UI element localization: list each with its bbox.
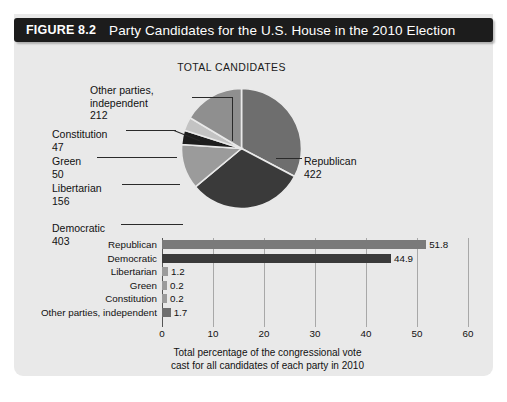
pie-label-other-parties: Other parties, independent 212 [90,84,154,122]
leader-line-democratic [121,224,183,225]
x-tick-label: 10 [208,328,219,339]
bar-value-label: 44.9 [394,253,413,265]
leader-line-other-v [232,97,233,141]
leader-line-other-h [192,97,233,98]
bar-value-label: 0.2 [170,280,184,292]
bar-constitution [162,294,167,303]
figure-number: FIGURE 8.2 [26,23,96,37]
leader-line-green [97,157,177,158]
pie-label-libertarian-name: Libertarian [52,182,102,194]
caption-line-1: Total percentage of the congressional vo… [174,347,362,358]
bar-chart-caption: Total percentage of the congressional vo… [28,347,507,372]
pie-value-other: 212 [90,109,154,122]
bar-green [162,281,167,290]
pie-value-green: 50 [52,168,81,181]
bar-x-axis-ticks: 0102030405060 [162,328,468,342]
bar-value-label: 0.2 [170,293,184,305]
pie-value-republican: 422 [304,168,357,181]
bar-other-parties-independent [162,308,171,317]
leader-line-constitution [126,130,176,131]
x-tick-label: 30 [310,328,321,339]
pie-chart-svg [179,86,304,211]
x-tick-label: 60 [463,328,474,339]
pie-value-libertarian: 156 [52,195,102,208]
pie-label-constitution-name: Constitution [52,128,107,140]
bar-row: 1.7 [162,308,468,317]
bar-row: 0.2 [162,281,468,290]
bar-row: 0.2 [162,294,468,303]
figure-title-bar: FIGURE 8.2 Party Candidates for the U.S.… [14,18,493,42]
bar-series: 51.844.91.20.20.21.7 [14,238,493,322]
x-tick-label: 0 [159,328,164,339]
pie-value-constitution: 47 [52,141,107,154]
pie-chart-heading: TOTAL CANDIDATES [0,61,471,73]
bar-row: 1.2 [162,267,468,276]
figure-title: Party Candidates for the U.S. House in t… [109,23,455,38]
bar-value-label: 51.8 [429,239,448,251]
bar-libertarian [162,267,168,276]
pie-label-other-line1: Other parties, [90,84,154,96]
bar-value-label: 1.2 [171,266,185,278]
bar-chart: RepublicanDemocraticLibertarianGreenCons… [14,238,493,376]
bar-value-label: 1.7 [174,307,188,319]
caption-line-2: cast for all candidates of each party in… [171,360,364,371]
pie-chart [179,86,304,211]
bar-republican [162,240,426,249]
pie-label-republican-name: Republican [304,155,357,167]
pie-label-libertarian: Libertarian 156 [52,182,102,207]
pie-label-constitution: Constitution 47 [52,128,107,153]
bar-row: 44.9 [162,254,468,263]
figure-plot-area: TOTAL CANDIDATES Other parties, independ… [14,42,493,376]
leader-line-libertarian [122,184,180,185]
pie-label-green: Green 50 [52,155,81,180]
pie-label-republican: Republican 422 [304,155,357,180]
x-tick-label: 50 [412,328,423,339]
pie-label-other-line2: independent [90,97,148,109]
bar-row: 51.8 [162,240,468,249]
pie-label-democratic-name: Democratic [52,222,105,234]
figure-card: FIGURE 8.2 Party Candidates for the U.S.… [14,14,493,376]
leader-line-republican [276,158,302,159]
x-tick-label: 40 [361,328,372,339]
bar-democratic [162,254,391,263]
x-tick-label: 20 [259,328,270,339]
pie-label-green-name: Green [52,155,81,167]
